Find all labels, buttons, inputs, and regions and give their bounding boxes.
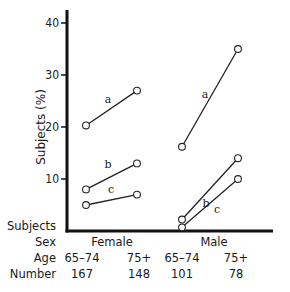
data-point-marker [235,176,242,183]
age-male-65-74: 65–74 [164,251,199,265]
series-label-a: a [202,88,209,101]
series-label-c: c [108,183,114,196]
number-male-75plus: 78 [229,267,244,281]
series-label-b: b [104,158,111,171]
data-point-marker [83,186,90,193]
series-line-male-a [182,49,238,147]
series-line-male-b [182,158,238,219]
y-tick-label: 40 [45,16,59,30]
y-axis-title: Subjects (%) [34,89,48,165]
series-label-a: a [105,93,112,106]
number-female-75plus: 148 [128,267,150,281]
y-tick-label: 30 [45,68,59,82]
data-point-marker [235,46,242,53]
series-line-male-c [182,179,238,227]
data-point-marker [83,202,90,209]
sex-female: Female [91,235,133,249]
chart-axes: 10203040 [45,10,273,233]
number-female-65-74: 167 [71,267,93,281]
series-line-female-a [86,91,137,126]
data-point-marker [134,191,141,198]
y-tick-label: 10 [45,172,59,186]
age-female-65-74: 65–74 [64,251,99,265]
row-label-age: Age [34,251,56,265]
series-label-c: c [214,203,220,216]
data-point-marker [179,224,186,231]
age-female-75plus: 75+ [127,251,151,265]
age-male-75plus: 75+ [224,251,248,265]
data-point-marker [83,122,90,129]
row-label-number: Number [10,267,56,281]
row-label-sex: Sex [35,235,56,249]
number-male-65-74: 101 [171,267,193,281]
data-point-marker [235,155,242,162]
data-point-marker [179,143,186,150]
row-label-subjects: Subjects [7,219,56,233]
series-line-female-c [86,195,137,205]
chart-series: abcabc [83,46,242,231]
data-point-marker [134,87,141,94]
sex-male: Male [200,235,227,249]
data-point-marker [134,160,141,167]
data-point-marker [179,216,186,223]
